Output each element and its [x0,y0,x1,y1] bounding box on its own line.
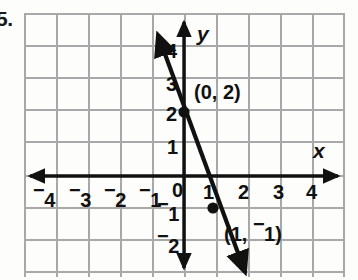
tick-y-1: 1 [167,137,178,157]
tick-x-neg4: −4 [33,182,55,210]
tick-y-3: 3 [166,74,177,94]
data-point-0-2 [178,106,189,117]
point-label-0-2: (0, 2) [194,82,241,102]
tick-y-2: 2 [166,104,177,124]
x-axis-label: x [313,140,325,161]
tick-digit: 1 [168,203,179,225]
minus-sign: − [69,180,80,200]
point-label-close: 1) [264,223,282,245]
tick-x-neg3: −3 [69,182,91,210]
minus-sign: − [253,214,264,234]
tick-x-neg2: −2 [104,182,126,210]
minus-sign: − [104,180,115,200]
minus-sign: − [139,180,150,200]
tick-x-2: 2 [238,182,249,202]
tick-y-4: 4 [166,41,177,61]
minus-sign: − [157,194,168,214]
y-axis-label: y [197,23,209,44]
tick-y-neg1: −1 [157,196,179,224]
tick-digit: 2 [115,189,126,211]
math-figure: 5. [0,0,358,280]
point-label-1-neg1: (1, −1) [224,216,282,244]
minus-sign: − [157,226,168,246]
tick-digit: 4 [44,189,55,211]
tick-x-4: 4 [306,182,317,202]
tick-x-3: 3 [273,182,284,202]
tick-digit: 2 [168,235,179,257]
minus-sign: − [33,180,44,200]
tick-x-1: 1 [203,182,214,202]
data-point-1-neg1 [207,202,218,213]
point-label-open: (1, [224,223,253,245]
tick-y-neg2: −2 [157,228,179,256]
tick-digit: 3 [80,189,91,211]
